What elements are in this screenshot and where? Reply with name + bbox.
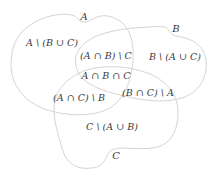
region-ac-not-b-label: (A ∩ C) \ B bbox=[53, 92, 105, 103]
venn-diagram: A B C A \ (B ∪ C) (A ∩ B) \ C B \ (A ∪ C… bbox=[0, 0, 217, 178]
region-a-only-label: A \ (B ∪ C) bbox=[25, 37, 78, 48]
region-bc-not-a-label: (B ∩ C) \ A bbox=[122, 87, 174, 98]
region-abc-label: A ∩ B ∩ C bbox=[80, 70, 131, 81]
set-c-label: C bbox=[112, 150, 120, 161]
region-ab-not-c-label: (A ∩ B) \ C bbox=[80, 50, 132, 61]
set-a-label: A bbox=[79, 11, 87, 22]
set-b-label: B bbox=[171, 23, 179, 34]
region-c-only-label: C \ (A ∪ B) bbox=[86, 121, 138, 132]
region-b-only-label: B \ (A ∪ C) bbox=[148, 51, 201, 62]
